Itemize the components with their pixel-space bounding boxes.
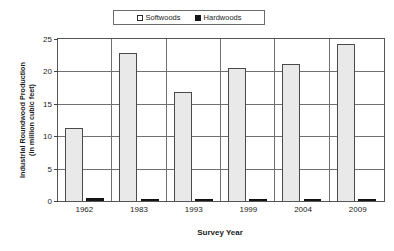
bar-softwoods-1962	[65, 128, 83, 201]
x-axis-title: Survey Year	[55, 228, 385, 237]
y-axis-tick-mark	[54, 201, 58, 202]
bar-group	[167, 39, 221, 201]
x-axis-tick-labels: 196219831993199920042009	[57, 205, 385, 219]
x-axis-tick-label: 1999	[221, 205, 276, 219]
bar-group	[275, 39, 329, 201]
x-axis-tick-label: 2004	[276, 205, 331, 219]
bar-group	[58, 39, 112, 201]
y-axis-title-line-1: Industrial Roundwood Production	[18, 38, 27, 202]
legend-label-hardwoods: Hardwoods	[204, 14, 242, 22]
bar-softwoods-2009	[337, 44, 355, 201]
bar-hardwoods-2004	[304, 199, 322, 201]
bar-hardwoods-1962	[86, 198, 104, 201]
y-axis-tick-label: 25	[43, 35, 52, 44]
bar-softwoods-1999	[228, 68, 246, 201]
y-axis-tick-label: 5	[48, 164, 52, 173]
bar-hardwoods-1993	[195, 199, 213, 201]
plot-area: 0510152025	[57, 38, 385, 202]
bar-softwoods-1993	[174, 92, 192, 201]
y-axis-tick-label: 20	[43, 67, 52, 76]
y-axis-tick-label: 0	[48, 197, 52, 206]
bar-groups	[58, 39, 384, 201]
x-axis-tick-label: 1983	[112, 205, 167, 219]
y-axis-tick-label: 15	[43, 99, 52, 108]
legend-entry-hardwoods: Hardwoods	[195, 14, 242, 22]
x-axis-tick-label: 1993	[166, 205, 221, 219]
chart-figure: Softwoods Hardwoods Industrial Roundwood…	[0, 0, 394, 251]
chart-legend: Softwoods Hardwoods	[113, 10, 265, 25]
y-axis-title-line-2: (in million cubic feet)	[27, 38, 36, 202]
y-axis-tick-label: 10	[43, 132, 52, 141]
bar-group	[330, 39, 384, 201]
bar-softwoods-1983	[119, 53, 137, 201]
bar-hardwoods-1983	[141, 199, 159, 201]
y-axis-title-wrap: Industrial Roundwood Production (in mill…	[14, 38, 40, 202]
bar-hardwoods-1999	[249, 199, 267, 201]
legend-entry-softwoods: Softwoods	[137, 14, 181, 22]
bar-group	[221, 39, 275, 201]
legend-swatch-softwoods-icon	[137, 15, 143, 21]
legend-label-softwoods: Softwoods	[146, 14, 181, 22]
bar-softwoods-2004	[282, 64, 300, 201]
x-axis-tick-label: 1962	[57, 205, 112, 219]
bar-hardwoods-2009	[358, 199, 376, 201]
y-axis-title: Industrial Roundwood Production (in mill…	[18, 38, 36, 202]
bar-group	[112, 39, 166, 201]
x-axis-tick-label: 2009	[330, 205, 385, 219]
legend-swatch-hardwoods-icon	[195, 15, 201, 21]
